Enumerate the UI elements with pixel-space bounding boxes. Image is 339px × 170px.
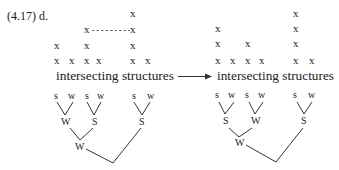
grid-mark: x <box>293 7 299 19</box>
tree-node: S <box>223 115 229 126</box>
grid-mark: x <box>245 37 251 49</box>
tree-branch <box>219 102 234 114</box>
grid-mark: x <box>309 54 315 66</box>
grid-mark: x <box>130 54 136 66</box>
tree-node: S <box>92 116 98 127</box>
tree-branch <box>57 102 73 115</box>
grid-mark: x <box>215 37 221 49</box>
tree-node: W <box>61 116 71 127</box>
arrow-icon <box>178 74 212 80</box>
tree-node: W <box>235 137 245 148</box>
tree-node: w <box>258 89 266 100</box>
right-phrase: intersecting structures <box>217 68 334 83</box>
tree-branch <box>87 102 101 115</box>
grid-mark: x <box>245 54 251 66</box>
grid-mark: x <box>293 37 299 49</box>
tree-branch <box>246 128 303 162</box>
grid-mark: x <box>54 39 60 51</box>
tree-node: w <box>147 90 155 101</box>
grid-mark: x <box>130 7 136 19</box>
tree-branch <box>86 128 141 163</box>
tree-node: S <box>301 115 307 126</box>
grid-mark: x <box>259 54 265 66</box>
tree-node: s <box>85 90 89 101</box>
tree-node: s <box>215 89 219 100</box>
grid-mark: x <box>69 54 75 66</box>
grid-mark: x <box>84 54 90 66</box>
tree-node: S <box>139 116 145 127</box>
left-metrical-tree: s w s w s w W S S W <box>54 90 155 163</box>
tree-node: s <box>293 89 297 100</box>
grid-mark: x <box>130 39 136 51</box>
grid-mark: x <box>215 22 221 34</box>
left-phrase: intersecting structures <box>56 68 174 83</box>
grid-mark: x <box>54 54 60 66</box>
right-metrical-grid: x x x x x x x x x x x x <box>215 7 315 66</box>
tree-node: W <box>75 141 85 152</box>
left-metrical-grid: x x x x x x x x x x x x <box>54 7 151 66</box>
right-metrical-tree: s w s w s w S W S W <box>215 89 316 162</box>
tree-node: W <box>251 115 261 126</box>
grid-mark: x <box>84 39 90 51</box>
grid-mark: x <box>145 54 151 66</box>
tree-branch <box>297 102 312 114</box>
tree-branch <box>249 102 263 114</box>
tree-node: s <box>245 89 249 100</box>
tree-branch <box>134 102 150 115</box>
tree-branch <box>229 128 252 137</box>
grid-mark: x <box>293 54 299 66</box>
grid-mark: x <box>130 23 136 35</box>
grid-mark: x <box>230 54 236 66</box>
example-label: (4.17) d. <box>7 9 48 23</box>
grid-mark: x <box>96 54 102 66</box>
tree-branch <box>70 128 93 140</box>
metrical-grid-diagram: (4.17) d. x x x x x x x x x x x x inters… <box>0 0 339 170</box>
tree-node: s <box>54 90 58 101</box>
grid-mark: x <box>84 23 90 35</box>
tree-node: w <box>97 90 105 101</box>
tree-node: w <box>228 89 236 100</box>
grid-mark: x <box>215 54 221 66</box>
grid-mark: x <box>293 22 299 34</box>
tree-node: w <box>308 89 316 100</box>
tree-node: w <box>68 90 76 101</box>
tree-node: s <box>132 90 136 101</box>
